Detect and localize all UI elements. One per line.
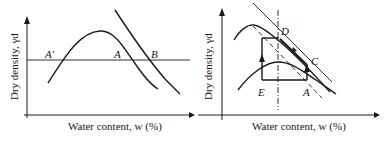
right-figure: D C E A Water content, w (%) Dry density… [198, 3, 380, 133]
left-figure: A′ A B Water content, w (%) Dry density,… [8, 10, 195, 133]
zero-air-voids-line [253, 3, 332, 82]
left-x-axis-label: Water content, w (%) [68, 120, 162, 133]
label-e: E [257, 86, 265, 98]
label-d: D [280, 25, 289, 37]
left-y-arrow-icon [24, 16, 30, 24]
label-a-right: A [302, 86, 310, 98]
left-y-axis-label: Dry density, γd [8, 33, 20, 100]
label-c: C [311, 55, 319, 67]
right-x-arrow-icon [374, 112, 380, 118]
right-y-axis-label: Dry density, γd [202, 33, 214, 100]
left-x-arrow-icon [189, 112, 195, 118]
label-a-left: A [113, 48, 121, 60]
label-a-prime: A′ [44, 48, 55, 60]
right-y-arrow-icon [219, 8, 225, 16]
lower-compaction-curve [238, 62, 336, 94]
arrow-up-e-icon [259, 54, 265, 62]
diagram-canvas: A′ A B Water content, w (%) Dry density,… [0, 0, 389, 142]
label-b: B [151, 48, 158, 60]
left-line-b [115, 10, 180, 94]
right-x-axis-label: Water content, w (%) [252, 120, 346, 133]
